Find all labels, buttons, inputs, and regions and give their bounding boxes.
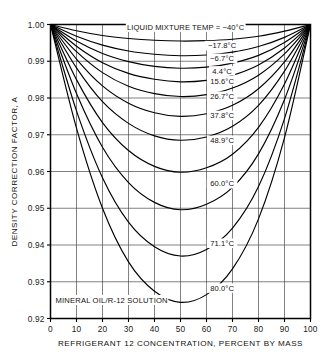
x-tick-label: 30 bbox=[124, 324, 134, 334]
x-tick-label: 100 bbox=[303, 324, 318, 334]
curve-label: LIQUID MIXTURE TEMP = −40°C bbox=[127, 23, 245, 32]
curve-label: 60.0°C bbox=[210, 179, 234, 188]
y-tick-label: 0.97 bbox=[28, 130, 45, 140]
x-tick-label: 40 bbox=[150, 324, 160, 334]
curve-label: −6.7°C bbox=[210, 54, 235, 63]
tick-marks bbox=[47, 25, 311, 323]
chart-container: 0.920.930.940.950.960.970.980.991.00 010… bbox=[0, 0, 332, 353]
y-tick-label: 0.96 bbox=[28, 167, 45, 177]
curve-label: 4.4°C bbox=[212, 67, 232, 76]
x-tick-label: 80 bbox=[254, 324, 264, 334]
x-tick-label: 10 bbox=[72, 324, 82, 334]
solution-annotation: MINERAL OIL/R-12 SOLUTION bbox=[55, 296, 167, 305]
curve-label: 15.6°C bbox=[210, 77, 234, 86]
y-tick-label: 0.99 bbox=[28, 56, 45, 66]
curve-label: 48.9°C bbox=[210, 136, 234, 145]
y-axis-tick-labels: 0.920.930.940.950.960.970.980.991.00 bbox=[28, 20, 45, 324]
y-tick-label: 1.00 bbox=[28, 20, 45, 30]
x-tick-label: 70 bbox=[228, 324, 238, 334]
curve-label: 37.8°C bbox=[210, 111, 234, 120]
x-tick-label: 0 bbox=[48, 324, 53, 334]
x-tick-label: 50 bbox=[176, 324, 186, 334]
x-axis-tick-labels: 0102030405060708090100 bbox=[48, 324, 318, 334]
curve-label: 71.1°C bbox=[210, 239, 234, 248]
y-tick-label: 0.94 bbox=[28, 240, 45, 250]
axis-titles: REFRIGERANT 12 CONCENTRATION, PERCENT BY… bbox=[10, 96, 303, 347]
y-tick-label: 0.95 bbox=[28, 203, 45, 213]
curve-label: −17.8°C bbox=[208, 41, 237, 50]
curve-label: 80.0°C bbox=[210, 284, 234, 293]
x-tick-label: 20 bbox=[98, 324, 108, 334]
y-tick-label: 0.92 bbox=[28, 314, 45, 324]
y-tick-label: 0.93 bbox=[28, 277, 45, 287]
y-tick-label: 0.98 bbox=[28, 93, 45, 103]
y-axis-title: DENSITY CORRECTION FACTOR, A bbox=[10, 96, 19, 246]
x-tick-label: 60 bbox=[202, 324, 212, 334]
curve-label: 26.7°C bbox=[210, 92, 234, 101]
x-tick-label: 90 bbox=[280, 324, 290, 334]
x-axis-title: REFRIGERANT 12 CONCENTRATION, PERCENT BY… bbox=[58, 339, 303, 348]
density-correction-factor-chart: 0.920.930.940.950.960.970.980.991.00 010… bbox=[0, 0, 332, 353]
